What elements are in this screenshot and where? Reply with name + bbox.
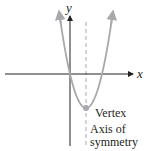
vertex-point — [83, 105, 89, 111]
x-axis-label: x — [136, 66, 143, 81]
vertex-label: Vertex — [95, 106, 126, 120]
left-arm-arrow — [59, 11, 61, 25]
right-arm-arrow — [111, 11, 113, 25]
axis-of-symmetry-label-line1: Axis of — [90, 122, 126, 136]
y-axis-label: y — [64, 0, 72, 15]
axis-of-symmetry-label-line2: symmetry — [90, 135, 138, 149]
parabola-diagram: y x Vertex Axis of symmetry — [0, 0, 147, 151]
